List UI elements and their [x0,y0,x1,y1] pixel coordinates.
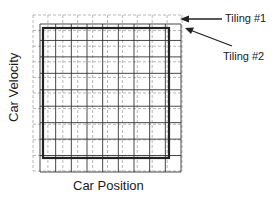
tiling-1-arrow [180,16,222,23]
tiling-2-arrow [185,28,232,47]
y-axis-label: Car Velocity [6,53,21,122]
x-axis-label: Car Position [73,178,144,193]
tiling-1-label: Tiling #1 [225,12,266,24]
tile-coding-diagram [0,0,278,198]
tiling-2-label: Tiling #2 [223,50,264,62]
